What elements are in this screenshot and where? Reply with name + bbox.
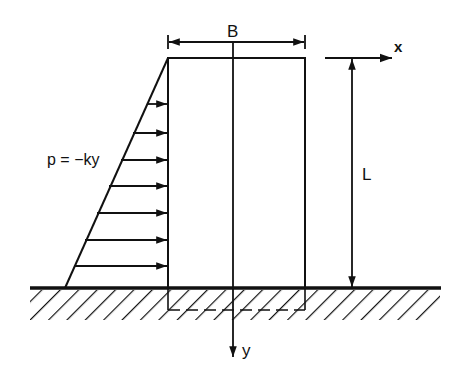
y-axis-label: y [242,341,251,360]
ground-hatching [30,290,440,322]
diagram-canvas: B y x L p = −ky [0,0,464,373]
height-label: L [362,165,371,184]
wall-rectangle [168,58,305,288]
pressure-arrows [74,104,167,266]
x-axis-label: x [394,38,403,55]
pressure-envelope [65,58,168,288]
width-label: B [227,22,238,41]
pressure-label: p = −ky [47,151,99,168]
diagram-svg: B y x L p = −ky [0,0,464,373]
